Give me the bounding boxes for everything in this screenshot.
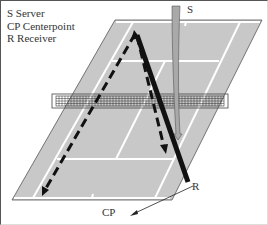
legend: S Server CP Centerpoint R Receiver xyxy=(7,7,75,45)
legend-item-server: S Server xyxy=(7,7,75,20)
receiver-label: R xyxy=(192,180,199,192)
net xyxy=(52,94,228,108)
legend-item-centerpoint: CP Centerpoint xyxy=(7,20,75,33)
centerpoint-label: CP xyxy=(102,206,115,218)
server-label: S xyxy=(187,3,193,15)
legend-item-receiver: R Receiver xyxy=(7,32,75,45)
center-mark-far xyxy=(185,22,186,26)
center-mark-near xyxy=(92,194,93,198)
centerpoint-arrowhead xyxy=(130,210,138,216)
court xyxy=(12,20,262,200)
